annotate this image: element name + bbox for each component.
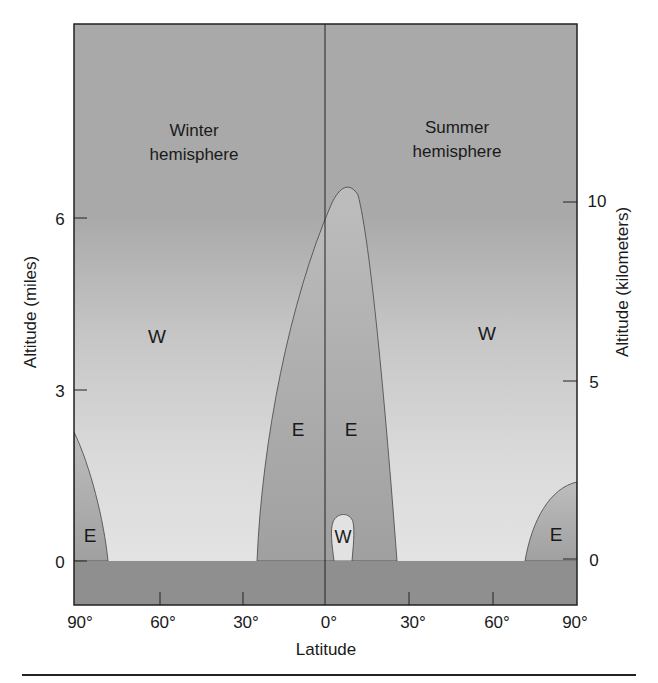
left-tick-label-6: 6 (55, 210, 64, 229)
equatorial-westerly-label: W (335, 527, 352, 547)
wind-zone-diagram: Winter hemisphere Summer hemisphere W W … (0, 0, 658, 683)
summer-title-line1: Summer (425, 118, 490, 137)
summer-polar-easterly-label: E (550, 524, 563, 545)
bottom-rule (22, 674, 636, 676)
winter-westerly-label: W (148, 326, 166, 347)
left-axis-title: Altitude (miles) (21, 256, 40, 368)
x-tick-label-90s: 90° (562, 613, 588, 632)
left-tick-label-0: 0 (55, 553, 64, 572)
x-axis-title: Latitude (296, 640, 357, 659)
right-axis-title: Altitude (kilometers) (613, 207, 632, 357)
winter-title-line2: hemisphere (150, 145, 239, 164)
right-tick-label-10: 10 (588, 192, 607, 211)
x-tick-label-60w: 60° (150, 613, 176, 632)
x-tick-label-90w: 90° (67, 613, 93, 632)
x-tick-label-0: 0° (321, 613, 337, 632)
winter-polar-easterly-label: E (84, 525, 97, 546)
summer-title-line2: hemisphere (413, 142, 502, 161)
right-tick-label-5: 5 (589, 373, 598, 392)
summer-tropical-easterly-label: E (345, 419, 358, 440)
winter-title-line1: Winter (169, 121, 218, 140)
winter-tropical-easterly-label: E (292, 419, 305, 440)
x-tick-label-30w: 30° (233, 613, 259, 632)
summer-westerly-label: W (478, 323, 496, 344)
left-tick-label-3: 3 (55, 382, 64, 401)
x-tick-label-60s: 60° (484, 613, 510, 632)
x-tick-label-30s: 30° (400, 613, 426, 632)
right-tick-label-0: 0 (589, 551, 598, 570)
